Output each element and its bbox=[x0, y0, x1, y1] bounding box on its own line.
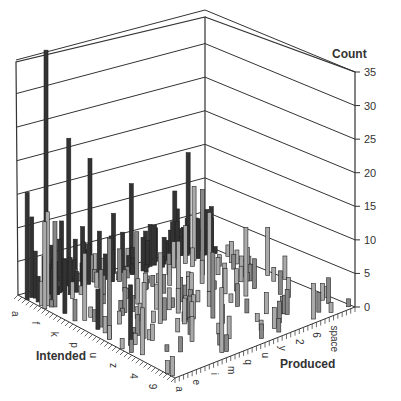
bar bbox=[259, 324, 263, 339]
produced-tick-label: m bbox=[226, 366, 237, 374]
intended-tick-label: k bbox=[49, 332, 60, 338]
count-tick-label: 25 bbox=[364, 133, 376, 145]
bar bbox=[158, 253, 162, 324]
bar bbox=[133, 333, 137, 344]
count-axis-title: Count bbox=[332, 47, 367, 61]
bar bbox=[244, 228, 248, 297]
intended-tick-label: z bbox=[108, 363, 119, 368]
bar bbox=[150, 324, 154, 341]
bar bbox=[196, 219, 200, 259]
intended-tick-label: 4 bbox=[128, 373, 139, 379]
bar bbox=[130, 264, 134, 275]
bar bbox=[264, 292, 268, 313]
bar bbox=[191, 248, 195, 267]
bar bbox=[321, 283, 325, 300]
bar bbox=[171, 356, 175, 376]
bar bbox=[183, 226, 187, 264]
bar bbox=[136, 315, 140, 336]
bar bbox=[220, 288, 224, 353]
intended-tick-label: 9 bbox=[147, 384, 158, 390]
bar bbox=[95, 272, 99, 287]
bar bbox=[183, 298, 187, 324]
bar bbox=[167, 288, 171, 310]
bar bbox=[96, 289, 100, 329]
produced-tick-label: u bbox=[260, 353, 271, 359]
bar bbox=[196, 290, 200, 302]
count-tick-label: 30 bbox=[364, 100, 376, 112]
bar bbox=[266, 227, 270, 275]
bar bbox=[200, 260, 204, 283]
produced-axis-title: Produced bbox=[280, 357, 335, 371]
bar bbox=[162, 298, 166, 320]
bar bbox=[283, 256, 287, 279]
bar bbox=[25, 192, 29, 299]
bar bbox=[207, 292, 211, 307]
produced-tick-label: e bbox=[191, 380, 202, 386]
bar bbox=[165, 361, 169, 374]
bar bbox=[327, 278, 331, 304]
bar bbox=[179, 337, 183, 352]
bar-chart-3d: 05101520253035 Count Intended Produced a… bbox=[0, 0, 401, 401]
bar bbox=[107, 238, 111, 339]
count-tick-label: 15 bbox=[364, 200, 376, 212]
bar bbox=[211, 252, 215, 318]
bar bbox=[53, 222, 57, 307]
bar bbox=[129, 339, 133, 352]
bar bbox=[120, 338, 124, 348]
bar bbox=[70, 282, 74, 299]
bar bbox=[144, 264, 148, 272]
bar bbox=[277, 319, 281, 332]
bar bbox=[190, 316, 194, 341]
bar bbox=[278, 271, 282, 294]
count-tick-label: 20 bbox=[364, 167, 376, 179]
intended-tick-label: p bbox=[69, 342, 80, 348]
bar bbox=[118, 249, 122, 282]
produced-tick-label: a bbox=[174, 386, 185, 392]
produced-tick-label: 6 bbox=[311, 332, 322, 338]
bar bbox=[245, 299, 249, 313]
bar bbox=[151, 311, 155, 322]
bar bbox=[176, 318, 180, 332]
bar bbox=[168, 264, 172, 285]
bar bbox=[312, 284, 316, 320]
produced-tick-label: 2 bbox=[294, 339, 305, 345]
bar bbox=[136, 279, 140, 304]
bar bbox=[154, 284, 158, 309]
count-axis: 05101520253035 bbox=[355, 66, 376, 313]
bar bbox=[87, 244, 91, 284]
bar bbox=[329, 302, 333, 312]
bar bbox=[165, 345, 169, 352]
bar bbox=[63, 260, 67, 314]
bar bbox=[129, 285, 133, 345]
bar bbox=[253, 259, 257, 289]
bar bbox=[79, 286, 83, 295]
bar bbox=[83, 253, 87, 320]
bar bbox=[347, 299, 351, 307]
intended-tick-label: u bbox=[88, 353, 99, 359]
bar bbox=[172, 242, 176, 268]
bar bbox=[103, 316, 107, 333]
bar bbox=[216, 258, 220, 275]
bar bbox=[232, 254, 236, 269]
bar bbox=[49, 300, 53, 307]
bar bbox=[317, 293, 321, 313]
bar bbox=[73, 299, 77, 321]
count-tick-label: 0 bbox=[364, 301, 370, 313]
produced-tick-label: space bbox=[329, 325, 340, 352]
bar bbox=[107, 326, 111, 340]
intended-tick-label: f bbox=[30, 321, 41, 324]
bar bbox=[145, 241, 149, 268]
bar bbox=[272, 307, 276, 328]
intended-axis-title: Intended bbox=[36, 349, 86, 363]
bar bbox=[236, 284, 240, 307]
bar bbox=[141, 308, 145, 355]
bar bbox=[117, 311, 121, 324]
count-tick-label: 5 bbox=[364, 267, 370, 279]
bar bbox=[255, 314, 259, 322]
bar bbox=[272, 267, 276, 281]
bar bbox=[239, 266, 243, 282]
count-tick-label: 10 bbox=[364, 234, 376, 246]
bar bbox=[225, 335, 229, 352]
bar bbox=[176, 288, 180, 313]
count-tick-label: 35 bbox=[364, 66, 376, 78]
